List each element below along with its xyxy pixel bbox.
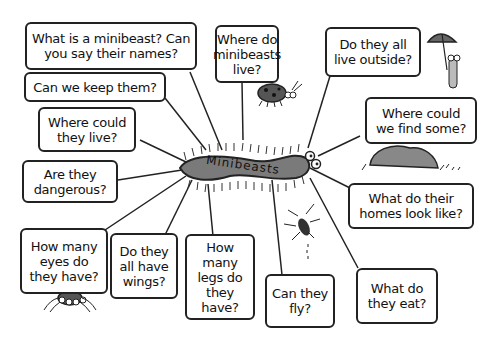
- flying-insect-icon: [284, 204, 320, 259]
- node-what-do-their-homes-look-like: What do their homes look like?: [348, 183, 474, 229]
- node-where-do-minibeasts-live: Where do minibeasts live?: [215, 25, 279, 83]
- node-what-is-minibeast: What is a minibeast? Can you say their n…: [25, 22, 197, 70]
- node-what-do-they-eat: What do they eat?: [356, 268, 438, 324]
- rock-icon: [362, 146, 460, 170]
- node-where-could-we-find-some: Where could we find some?: [365, 97, 477, 144]
- node-how-many-eyes: How many eyes do they have?: [20, 228, 108, 294]
- node-can-they-fly: Can they fly?: [265, 274, 335, 328]
- node-do-they-all-have-wings: Do they all have wings?: [110, 233, 178, 299]
- woodlouse-with-umbrella-icon: [428, 34, 460, 88]
- node-how-many-legs: How many legs do they have?: [185, 234, 255, 320]
- node-can-we-keep-them: Can we keep them?: [24, 72, 166, 102]
- ladybird-icon: [258, 81, 302, 107]
- node-are-they-dangerous: Are they dangerous?: [22, 160, 118, 203]
- spider-icon: [44, 291, 96, 312]
- node-do-they-all-live-outside: Do they all live outside?: [325, 27, 421, 77]
- node-where-could-they-live: Where could they live?: [38, 107, 136, 152]
- minibeasts-mind-map: What is a minibeast? Can you say their n…: [0, 0, 491, 348]
